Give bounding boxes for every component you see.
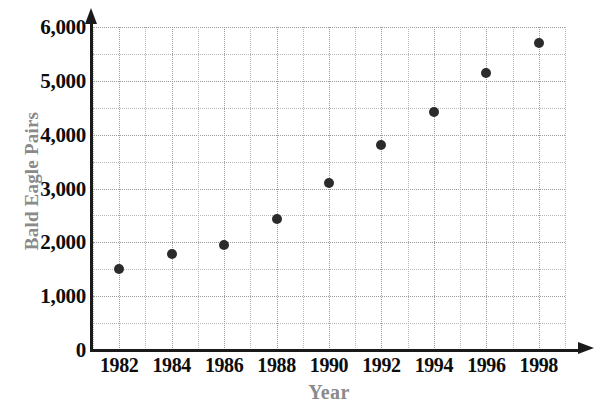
y-axis-tick-label: 6,000 [2,17,86,38]
gridline-vertical [198,27,199,350]
gridline-vertical [539,27,540,350]
x-axis-line [90,349,580,352]
gridline-vertical [565,27,566,350]
gridline-vertical [303,27,304,350]
y-axis-tick-label: 3,000 [2,179,86,200]
scatter-chart: 01,0002,0003,0004,0005,0006,000 Bald Eag… [0,0,606,412]
y-axis-tick-label: 5,000 [2,71,86,92]
y-axis-line [90,22,93,352]
gridline-vertical [119,27,120,350]
y-axis-tick-label: 1,000 [2,286,86,307]
y-axis-tick-label: 0 [2,340,86,361]
data-point [481,68,491,78]
plot-area [93,27,565,350]
gridline-vertical [381,27,382,350]
gridline-vertical [434,27,435,350]
gridline-vertical [93,27,94,350]
x-axis-title: Year [93,381,565,404]
data-point [167,249,177,259]
data-point [219,240,229,250]
y-axis-tick-labels: 01,0002,0003,0004,0005,0006,000 [0,0,86,412]
data-point [376,140,386,150]
gridline-vertical [250,27,251,350]
y-axis-tick-label: 2,000 [2,232,86,253]
gridline-vertical [408,27,409,350]
gridline-vertical [172,27,173,350]
y-axis-arrow-icon [85,8,97,24]
gridline-vertical [329,27,330,350]
gridline-vertical [277,27,278,350]
data-point [272,214,282,224]
data-point [114,264,124,274]
gridline-vertical [145,27,146,350]
data-point [324,178,334,188]
data-point [429,107,439,117]
y-axis-title: Bald Eagle Pairs [21,91,43,271]
x-axis-tick-label: 1998 [503,355,575,375]
data-point [534,38,544,48]
x-axis-arrow-icon [578,342,594,354]
gridline-vertical [355,27,356,350]
gridline-vertical [224,27,225,350]
gridline-vertical [513,27,514,350]
y-axis-tick-label: 4,000 [2,125,86,146]
gridline-vertical [460,27,461,350]
